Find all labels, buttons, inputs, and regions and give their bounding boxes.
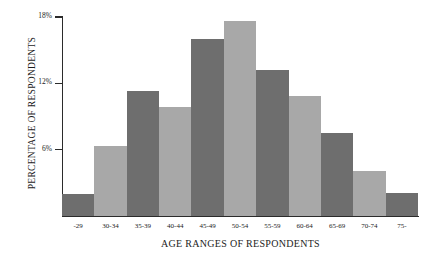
x-axis-line <box>62 216 419 217</box>
y-axis-tick-label: 6% <box>42 144 52 153</box>
x-axis-tick-label-40-44: 40-44 <box>159 222 191 230</box>
y-axis-tick-label: 18% <box>38 11 52 20</box>
y-axis-tick-mark <box>55 83 62 84</box>
bar-60-64 <box>289 96 321 217</box>
bar-30-34 <box>94 146 126 216</box>
x-axis-tick-label-75-: 75- <box>386 222 418 230</box>
x-axis-tick-label-30-34: 30-34 <box>94 222 126 230</box>
x-axis-tick-label-45-49: 45-49 <box>191 222 223 230</box>
bar-65-69 <box>321 133 353 216</box>
x-axis-tick-label-70-74: 70-74 <box>353 222 385 230</box>
x-axis-tick-label-50-54: 50-54 <box>224 222 256 230</box>
bar-chart-figure: PERCENTAGE OF RESPONDENTS 6%12%18% -2930… <box>0 0 436 264</box>
bar-70-74 <box>353 171 385 216</box>
x-axis-tick-label--29: -29 <box>62 222 94 230</box>
x-axis-tick-label-35-39: 35-39 <box>127 222 159 230</box>
bar-45-49 <box>191 39 223 216</box>
bar-40-44 <box>159 107 191 216</box>
y-axis-tick-mark <box>55 16 62 17</box>
y-axis-tick-mark <box>55 149 62 150</box>
y-axis-tick-label: 12% <box>38 77 52 86</box>
bar-50-54 <box>224 21 256 216</box>
y-axis-title: PERCENTAGE OF RESPONDENTS <box>27 3 37 223</box>
x-axis-title: AGE RANGES OF RESPONDENTS <box>62 238 419 249</box>
bar-35-39 <box>127 91 159 216</box>
bar-55-59 <box>256 70 288 216</box>
x-axis-tick-label-60-64: 60-64 <box>289 222 321 230</box>
bar-75- <box>386 193 418 216</box>
x-axis-tick-label-55-59: 55-59 <box>256 222 288 230</box>
x-axis-tick-label-65-69: 65-69 <box>321 222 353 230</box>
plot-area <box>62 17 418 216</box>
bar--29 <box>62 194 94 216</box>
